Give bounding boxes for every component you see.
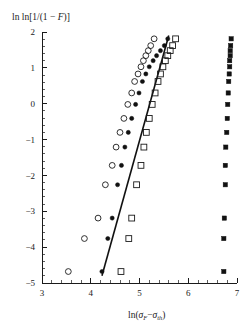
point-filled-square <box>225 130 229 134</box>
x-tick-label: 7 <box>235 288 240 298</box>
point-filled-circle <box>144 72 148 76</box>
x-axis-title-suffix: ) <box>162 310 165 321</box>
point-filled-square <box>228 59 232 63</box>
point-filled-square <box>224 145 228 149</box>
point-filled-square <box>228 54 232 58</box>
y-tick-label: −4 <box>25 242 35 252</box>
point-filled-circle <box>151 59 155 63</box>
point-filled-square <box>226 91 230 95</box>
point-filled-square <box>226 102 230 106</box>
point-filled-square <box>222 236 226 240</box>
point-filled-square <box>223 183 227 187</box>
point-filled-square <box>222 269 226 273</box>
point-filled-square <box>222 216 226 220</box>
point-filled-circle <box>115 183 119 187</box>
x-tick-label: 3 <box>40 288 45 298</box>
point-filled-circle <box>154 54 158 58</box>
point-filled-circle <box>147 65 151 69</box>
point-filled-circle <box>130 116 134 120</box>
y-tick-label: −5 <box>25 278 35 288</box>
y-axis-title: ln ln[1/(1 − F)] <box>12 12 70 23</box>
point-filled-circle <box>158 49 162 53</box>
x-tick-label: 5 <box>137 288 142 298</box>
y-tick-label: −2 <box>25 171 35 181</box>
y-axis-title-tail: )] <box>64 12 70 23</box>
point-filled-circle <box>162 44 166 48</box>
point-filled-square <box>229 44 233 48</box>
x-tick-label: 4 <box>89 288 94 298</box>
point-filled-circle <box>166 37 170 41</box>
point-filled-circle <box>134 102 138 106</box>
point-filled-square <box>228 49 232 53</box>
x-tick-label: 6 <box>186 288 191 298</box>
x-axis-title-prefix: ln( <box>128 310 139 321</box>
y-tick-label: −3 <box>25 206 35 216</box>
y-tick-label: −1 <box>25 135 35 145</box>
point-filled-circle <box>100 269 104 273</box>
point-filled-circle <box>123 145 127 149</box>
point-filled-square <box>223 163 227 167</box>
plot-background <box>0 0 249 329</box>
point-filled-square <box>227 79 231 83</box>
point-filled-circle <box>119 163 123 167</box>
point-filled-circle <box>140 79 144 83</box>
point-filled-square <box>227 72 231 76</box>
y-tick-label: 0 <box>31 99 36 109</box>
y-tick-label: 1 <box>31 63 36 73</box>
y-tick-label: 2 <box>31 27 36 37</box>
point-filled-circle <box>106 236 110 240</box>
point-filled-square <box>225 116 229 120</box>
y-axis-title-lead: ln ln[1/(1 − <box>12 12 58 23</box>
point-filled-circle <box>126 130 130 134</box>
point-filled-square <box>229 37 233 41</box>
weibull-probability-plot: ln ln[1/(1 − F)] 210−1−2−3−4−534567 ln(σ… <box>0 0 249 329</box>
point-filled-circle <box>137 91 141 95</box>
point-filled-square <box>228 65 232 69</box>
point-filled-circle <box>110 216 114 220</box>
